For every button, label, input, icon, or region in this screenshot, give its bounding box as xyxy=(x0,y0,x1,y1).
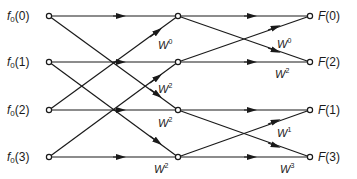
twiddle-s2-1: W2 xyxy=(275,67,289,80)
input-label-2: f0(2) xyxy=(7,104,29,118)
fft-flow-graph: f0(0) f0(1) f0(2) f0(3) F(0) F(2) F(1) F… xyxy=(0,0,357,179)
mid-node-2 xyxy=(175,107,180,112)
twiddle-s1-2: W2 xyxy=(158,116,172,129)
mid-node-0 xyxy=(175,13,180,18)
output-label-1: F(2) xyxy=(318,56,340,68)
twiddle-s2-2: W1 xyxy=(277,126,291,139)
output-node-0 xyxy=(307,13,312,18)
output-node-2 xyxy=(307,107,312,112)
twiddle-s1-1: W2 xyxy=(158,82,172,95)
input-node-3 xyxy=(46,154,51,159)
twiddle-s2-0: W0 xyxy=(277,37,291,50)
output-node-1 xyxy=(307,59,312,64)
input-node-1 xyxy=(46,59,51,64)
output-label-3: F(3) xyxy=(318,151,340,163)
flow-graph-lines xyxy=(0,0,357,179)
input-label-1: f0(1) xyxy=(7,56,29,70)
mid-node-1 xyxy=(175,59,180,64)
twiddle-s1-3: W2 xyxy=(154,162,168,175)
input-label-0: f0(0) xyxy=(7,10,29,24)
output-label-2: F(1) xyxy=(318,104,340,116)
input-node-0 xyxy=(46,13,51,18)
twiddle-s2-3: W3 xyxy=(280,162,294,175)
output-node-3 xyxy=(307,154,312,159)
input-node-2 xyxy=(46,107,51,112)
input-label-3: f0(3) xyxy=(7,151,29,165)
mid-node-3 xyxy=(175,154,180,159)
twiddle-s1-0: W0 xyxy=(158,38,172,51)
output-label-0: F(0) xyxy=(318,10,340,22)
